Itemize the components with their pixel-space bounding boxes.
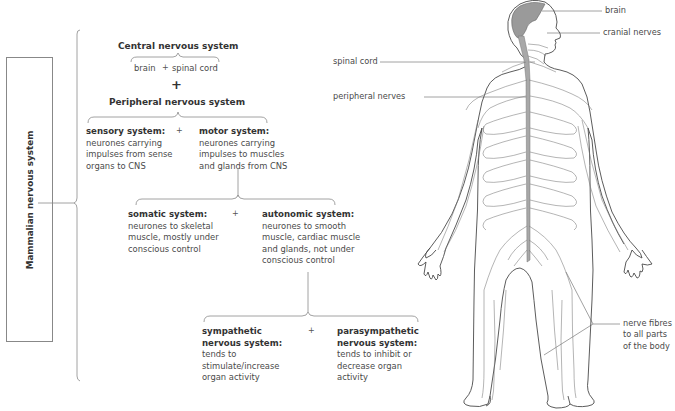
nerve-fibres-line: of the body [623, 341, 672, 352]
sensory-line: impulses from sense [86, 149, 172, 161]
autonomic-line: and glands, not under [262, 244, 360, 256]
pns-brace [88, 112, 267, 123]
nerve-fibres-line: nerve fibres [623, 318, 672, 329]
somatic-system: somatic system: neurones to skeletal mus… [128, 209, 219, 255]
label-spinal-cord: spinal cord [333, 56, 378, 67]
label-nerve-fibres: nerve fibres to all parts of the body [623, 318, 672, 352]
label-peripheral-nerves: peripheral nerves [333, 91, 405, 102]
autonomic-line: conscious control [262, 255, 360, 267]
motor-line: and glands from CNS [199, 161, 287, 173]
side-label-box: Mammalian nervous system [6, 57, 53, 342]
motor-brace [136, 195, 335, 205]
motor-system: motor system: neurones carrying impulses… [199, 126, 287, 172]
somatic-heading: somatic system: [128, 209, 219, 221]
pns-title: Peripheral nervous system [108, 97, 246, 107]
cns-brace [131, 53, 219, 62]
sympathetic-system: sympathetic nervous system: tends to sti… [202, 326, 282, 384]
parasympathetic-system: parasympathetic nervous system: tends to… [337, 326, 419, 384]
cns-plus: + [162, 63, 169, 72]
nerve-fibres-line: to all parts [623, 329, 672, 340]
sensory-line: neurones carrying [86, 138, 172, 150]
autonomic-line: neurones to smooth [262, 221, 360, 233]
sympathetic-heading: nervous system: [202, 338, 282, 350]
sensory-system: sensory system: neurones carrying impuls… [86, 126, 172, 172]
join-plus: + [171, 77, 182, 92]
label-brain: brain [605, 5, 626, 16]
autonomic-branches-plus: + [308, 326, 315, 335]
motor-line: impulses to muscles [199, 149, 287, 161]
label-cranial-nerves: cranial nerves [603, 27, 661, 38]
sympathetic-line: organ activity [202, 372, 282, 384]
sympathetic-heading: sympathetic [202, 326, 282, 338]
parasympathetic-line: activity [337, 372, 419, 384]
body-figure [418, 0, 652, 408]
sensory-heading: sensory system: [86, 126, 172, 138]
autonomic-heading: autonomic system: [262, 209, 360, 221]
cns-part-brain: brain [134, 63, 156, 75]
main-bracket [74, 30, 80, 381]
autonomic-system: autonomic system: neurones to smooth mus… [262, 209, 360, 267]
somatic-line: conscious control [128, 244, 219, 256]
cns-part-spinal-cord: spinal cord [172, 63, 218, 75]
autonomic-line: muscle, cardiac muscle [262, 232, 360, 244]
motor-branches-plus: + [232, 209, 239, 218]
parasympathetic-heading: parasympathetic [337, 326, 419, 338]
motor-line: neurones carrying [199, 138, 287, 150]
pns-plus: + [176, 126, 183, 135]
sympathetic-line: stimulate/increase [202, 361, 282, 373]
parasympathetic-line: decrease organ [337, 361, 419, 373]
parasympathetic-heading: nervous system: [337, 338, 419, 350]
motor-heading: motor system: [199, 126, 287, 138]
somatic-line: neurones to skeletal [128, 221, 219, 233]
brain-shape [512, 2, 545, 38]
cns-title: Central nervous system [118, 41, 234, 51]
sensory-line: organs to CNS [86, 161, 172, 173]
parasympathetic-line: tends to inhibit or [337, 349, 419, 361]
autonomic-brace [204, 312, 418, 322]
sympathetic-line: tends to [202, 349, 282, 361]
side-label: Mammalian nervous system [25, 130, 35, 269]
somatic-line: muscle, mostly under [128, 232, 219, 244]
